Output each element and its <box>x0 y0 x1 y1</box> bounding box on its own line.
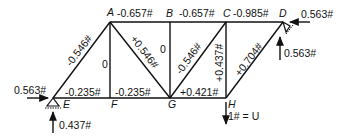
load-E-vertical: 0.437# <box>59 119 91 131</box>
load-H: 1# = U <box>228 110 259 122</box>
truss-diagram: A B C D E F G H -0.546# -0.657# -0.657# … <box>0 0 346 140</box>
force-AB: -0.657# <box>117 7 153 19</box>
node-label-D: D <box>279 7 287 19</box>
force-AF: 0 <box>102 58 108 70</box>
pin-support-icon <box>283 22 290 32</box>
node-label-A: A <box>106 6 114 18</box>
node-label-G: G <box>168 98 176 110</box>
support-D <box>283 22 293 34</box>
support-E <box>45 98 61 108</box>
force-CH: +0.437# <box>213 44 225 82</box>
force-EF: -0.235# <box>65 86 101 98</box>
force-CD: -0.985# <box>233 7 269 19</box>
force-BG: 0 <box>160 43 166 55</box>
node-label-B: B <box>166 7 173 19</box>
node-label-E: E <box>63 98 71 110</box>
node-label-C: C <box>223 7 231 19</box>
force-FG: -0.235# <box>115 86 151 98</box>
force-GH: +0.421# <box>180 86 218 98</box>
node-label-F: F <box>111 98 118 110</box>
force-BC: -0.657# <box>179 7 215 19</box>
load-D-horizontal: 0.563# <box>301 8 333 20</box>
force-HD: +0.704# <box>232 40 265 78</box>
load-E-horizontal: 0.563# <box>14 84 46 96</box>
load-D-vertical: 0.563# <box>284 47 316 59</box>
node-label-H: H <box>228 98 236 110</box>
pin-support-icon <box>47 98 59 106</box>
